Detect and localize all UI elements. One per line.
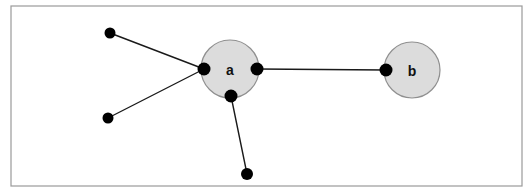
connection-port-b-left[interactable] [380,64,393,77]
figure-background [0,0,532,195]
node-label-a: a [226,62,234,78]
leaf-dot-bottom[interactable] [241,168,253,180]
edge-a-to-b [257,69,386,70]
leaf-dot-top-left[interactable] [105,28,116,39]
connection-port-a-bottom[interactable] [225,90,238,103]
diagram-canvas: ab [0,0,532,195]
leaf-dot-bottom-left[interactable] [103,113,114,124]
diagram-figure: ab [0,0,532,195]
connection-port-a-right[interactable] [251,63,264,76]
connection-port-a-left[interactable] [198,63,211,76]
node-label-b: b [408,63,417,79]
